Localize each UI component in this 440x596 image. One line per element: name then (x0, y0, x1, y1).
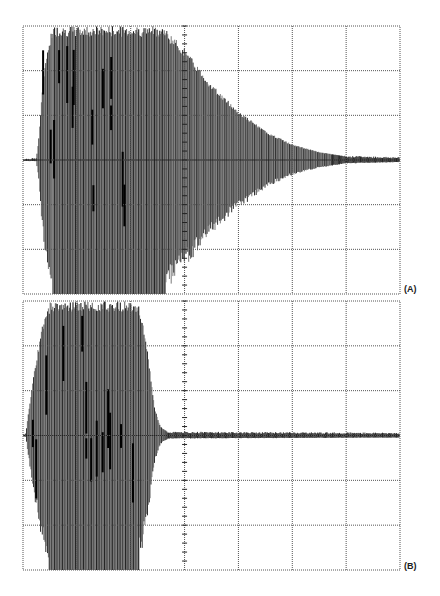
panel-label-b: (B) (404, 561, 417, 571)
scope-panel-b: (B) (0, 0, 440, 596)
scope-trace-b (0, 0, 440, 596)
